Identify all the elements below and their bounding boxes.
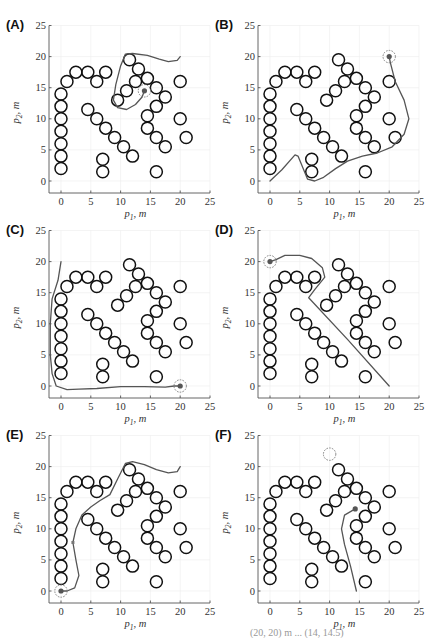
obstacle-circle: [82, 476, 94, 488]
obstacle-circle: [389, 336, 401, 348]
obstacles: [264, 464, 401, 588]
obstacle-circle: [141, 110, 153, 122]
x-tick-label: 15: [354, 606, 365, 617]
obstacle-circle: [150, 100, 162, 112]
y-tick-label: 10: [36, 523, 47, 534]
obstacle-circle: [279, 476, 291, 488]
y-tick-label: 10: [36, 113, 47, 124]
obstacle-circle: [121, 290, 133, 302]
obstacles: [264, 54, 401, 178]
obstacles: [264, 259, 401, 383]
y-tick-label: 20: [245, 256, 256, 267]
obstacle-circle: [341, 473, 353, 485]
y-axis-label: p2, m: [10, 511, 24, 534]
obstacle-circle: [333, 464, 345, 476]
obstacle-circle: [124, 464, 136, 476]
obstacle-circle: [121, 85, 133, 97]
obstacle-circle: [112, 299, 124, 311]
obstacle-circle: [359, 510, 371, 522]
x-tick-label: 5: [88, 401, 93, 412]
y-tick-label: 5: [250, 349, 255, 360]
obstacle-circle: [341, 268, 353, 280]
obstacle-circle: [61, 280, 73, 292]
obstacle-circle: [359, 371, 371, 383]
obstacle-circle: [339, 280, 351, 292]
panel-label: (F): [215, 427, 232, 442]
obstacle-circle: [359, 166, 371, 178]
y-tick-label: 10: [245, 318, 256, 329]
y-tick-label: 10: [245, 113, 256, 124]
obstacle-circle: [350, 110, 362, 122]
obstacle-circle: [159, 551, 171, 563]
x-tick-label: 20: [175, 401, 186, 412]
obstacle-circle: [300, 280, 312, 292]
obstacle-circle: [130, 75, 142, 87]
y-tick-label: 20: [245, 51, 256, 62]
obstacle-circle: [270, 280, 282, 292]
obstacle-circle: [389, 131, 401, 143]
obstacle-circle: [306, 153, 318, 165]
obstacle-circle: [336, 560, 348, 572]
x-tick-label: 25: [205, 401, 216, 412]
obstacle-circle: [368, 551, 380, 563]
y-tick-label: 10: [245, 523, 256, 534]
panel-label: (E): [6, 427, 23, 442]
obstacle-circle: [270, 485, 282, 497]
robot-position-dot: [387, 54, 392, 59]
obstacle-circle: [150, 371, 162, 383]
obstacle-circle: [121, 495, 133, 507]
obstacle-circle: [100, 122, 112, 134]
obstacle-circle: [291, 476, 303, 488]
x-tick-label: 25: [414, 196, 425, 207]
x-tick-label: 25: [205, 606, 216, 617]
y-tick-label: 15: [36, 287, 47, 298]
obstacle-circle: [180, 336, 192, 348]
y-tick-label: 15: [245, 82, 256, 93]
figure-grid: (A)05101520250510152025p1, mp2, m(B)0510…: [0, 0, 439, 638]
obstacle-circle: [359, 541, 371, 553]
obstacle-circle: [97, 563, 109, 575]
x-tick-label: 25: [205, 196, 216, 207]
obstacle-circle: [318, 131, 330, 143]
obstacle-circle: [159, 346, 171, 358]
x-tick-label: 15: [145, 196, 156, 207]
obstacle-circle: [327, 551, 339, 563]
obstacle-circle: [61, 75, 73, 87]
obstacle-circle: [141, 315, 153, 327]
panel-label: (B): [215, 17, 233, 32]
y-axis-label: p2, m: [219, 306, 233, 329]
y-tick-label: 0: [41, 176, 46, 187]
obstacle-circle: [118, 346, 130, 358]
panel-b: (B)05101520250510152025p1, mp2, m: [215, 17, 424, 222]
y-tick-label: 5: [41, 349, 46, 360]
y-axis-label: p2, m: [10, 101, 24, 124]
y-tick-label: 5: [250, 144, 255, 155]
obstacle-circle: [100, 271, 112, 283]
obstacle-circle: [327, 346, 339, 358]
obstacle-circle: [300, 75, 312, 87]
x-tick-label: 0: [58, 606, 63, 617]
y-tick-label: 25: [245, 430, 256, 441]
x-tick-label: 0: [267, 196, 272, 207]
obstacle-circle: [82, 103, 94, 115]
obstacle-circle: [306, 166, 318, 178]
obstacle-circle: [141, 482, 153, 494]
obstacle-circle: [291, 66, 303, 78]
obstacle-circle: [336, 355, 348, 367]
x-tick-label: 20: [384, 196, 395, 207]
obstacle-circle: [118, 141, 130, 153]
obstacle-circle: [159, 296, 171, 308]
x-axis-label: p1, m: [333, 413, 356, 427]
obstacle-circle: [159, 91, 171, 103]
obstacle-circle: [339, 75, 351, 87]
waypoint-marker: [71, 541, 74, 544]
x-tick-label: 20: [384, 401, 395, 412]
obstacle-circle: [368, 346, 380, 358]
obstacle-circle: [91, 280, 103, 292]
obstacle-circle: [70, 476, 82, 488]
obstacle-circle: [97, 153, 109, 165]
obstacle-circle: [132, 268, 144, 280]
obstacle-circle: [150, 510, 162, 522]
obstacle-circle: [330, 495, 342, 507]
panel-f: (F)05101520250510152025p1, mp2, m: [215, 427, 424, 632]
